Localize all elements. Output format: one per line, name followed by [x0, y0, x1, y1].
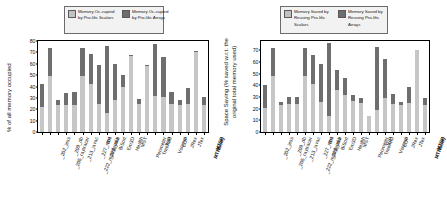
- x-tick-mark-right-18: [409, 132, 410, 135]
- bar-segment-scalars: [64, 105, 68, 132]
- bar-left-12: [137, 41, 141, 132]
- y-tick-mark-right-50: [259, 73, 261, 74]
- bar-left-9: [113, 41, 117, 132]
- x-tick-mark-right-12: [361, 132, 362, 135]
- bar-left-14: [153, 41, 157, 132]
- x-tick-mark-right-11: [353, 132, 354, 135]
- bar-right-12: [359, 41, 363, 132]
- y-minor-tick-right-25: [260, 102, 261, 103]
- y-tick-mark-right-30: [259, 97, 261, 98]
- y-tick-mark-left-10: [36, 120, 38, 121]
- legend-label-saved-scalars: Memory Saved by Reusing Pro-lific Scalar…: [294, 9, 334, 28]
- bar-segment-scalars: [279, 105, 283, 132]
- bar-right-7: [319, 41, 323, 132]
- bar-segment-arrays: [113, 64, 117, 100]
- y-axis-title-right: Space Saving (% saved w.r.t. the origina…: [223, 36, 238, 128]
- bar-segment-arrays: [423, 98, 427, 105]
- bar-segment-arrays: [287, 97, 291, 104]
- x-tick-mark-left-16: [172, 132, 173, 135]
- x-tick-mark-right-14: [377, 132, 378, 135]
- x-tick-mark-left-15: [163, 132, 164, 135]
- bar-left-15: [161, 41, 165, 132]
- y-minor-tick-right-5: [260, 126, 261, 127]
- legend-label-scalars: Memory Oc-cupied by Pro-lific Scalars: [78, 9, 118, 22]
- bar-segment-scalars: [129, 56, 133, 132]
- bar-segment-scalars: [271, 76, 275, 132]
- bar-segment-arrays: [169, 92, 173, 103]
- legend-space-saving: Memory Saved by Reusing Pro-lific Scalar…: [280, 6, 388, 34]
- bar-segment-scalars: [153, 96, 157, 132]
- bar-right-15: [383, 41, 387, 132]
- bar-left-7: [97, 41, 101, 132]
- bar-right-4: [295, 41, 299, 132]
- y-minor-tick-left-65: [37, 58, 38, 59]
- bar-left-19: [194, 41, 198, 132]
- x-axis-label-right-0: _202_jess: [281, 136, 294, 159]
- bar-right-10: [343, 41, 347, 132]
- bar-right-20: [423, 41, 427, 132]
- legend-item-saved-scalars: Memory Saved by Reusing Pro-lific Scalar…: [284, 9, 334, 31]
- bar-right-16: [391, 41, 395, 132]
- y-tick-mark-left-0: [36, 132, 38, 133]
- x-tick-mark-right-5: [305, 132, 306, 135]
- bar-segment-scalars: [56, 105, 60, 132]
- y-minor-tick-right-35: [260, 91, 261, 92]
- x-tick-mark-left-5: [83, 132, 84, 135]
- bar-right-14: [375, 41, 379, 132]
- bar-right-17: [399, 41, 403, 132]
- x-axis-label-left-11: MST: [139, 136, 148, 148]
- x-tick-mark-left-3: [66, 132, 67, 135]
- bar-left-16: [169, 41, 173, 132]
- x-tick-mark-right-19: [417, 132, 418, 135]
- bar-segment-scalars: [391, 104, 395, 132]
- y-minor-tick-right-55: [260, 67, 261, 68]
- bar-segment-scalars: [178, 105, 182, 132]
- x-tick-mark-left-19: [196, 132, 197, 135]
- bar-segment-arrays: [383, 59, 387, 99]
- bar-right-13: [367, 41, 371, 132]
- bar-right-3: [287, 41, 291, 132]
- bar-segment-scalars: [113, 100, 117, 132]
- bar-right-9: [335, 41, 339, 132]
- bar-segment-scalars: [415, 50, 419, 132]
- bar-segment-arrays: [48, 48, 52, 76]
- bar-segment-scalars: [367, 116, 371, 132]
- x-tick-mark-left-10: [123, 132, 124, 135]
- x-tick-mark-right-6: [313, 132, 314, 135]
- bar-segment-arrays: [186, 88, 190, 104]
- bar-segment-arrays: [161, 57, 165, 97]
- bar-segment-arrays: [89, 54, 93, 85]
- legend-item-arrays: Memory Oc-cupied by Pro-lific Arrays: [122, 9, 172, 31]
- y-minor-tick-right-75: [260, 44, 261, 45]
- x-tick-mark-left-4: [74, 132, 75, 135]
- x-tick-mark-left-17: [180, 132, 181, 135]
- bar-segment-scalars: [161, 97, 165, 132]
- bar-segment-scalars: [169, 104, 173, 132]
- y-tick-mark-right-70: [259, 50, 261, 51]
- legend-item-scalars: Memory Oc-cupied by Pro-lific Scalars: [68, 9, 118, 31]
- bar-segment-scalars: [48, 76, 52, 132]
- x-tick-mark-left-8: [107, 132, 108, 135]
- legend-swatch-scalars-icon: [68, 10, 76, 18]
- legend-swatch-saved-scalars-icon: [284, 10, 292, 18]
- bar-segment-arrays: [375, 47, 379, 110]
- x-tick-mark-right-16: [393, 132, 394, 135]
- x-tick-mark-left-9: [115, 132, 116, 135]
- bar-right-0: [263, 41, 267, 132]
- bar-left-4: [72, 41, 76, 132]
- bar-segment-arrays: [105, 46, 109, 113]
- bar-right-1: [271, 41, 275, 132]
- y-tick-mark-left-20: [36, 109, 38, 110]
- bar-segment-scalars: [295, 104, 299, 132]
- bar-segment-scalars: [263, 108, 267, 133]
- bar-left-10: [121, 41, 125, 132]
- legend-swatch-arrays-icon: [122, 10, 130, 18]
- y-tick-mark-left-40: [36, 86, 38, 87]
- bar-right-18: [407, 41, 411, 132]
- bar-segment-scalars: [383, 98, 387, 132]
- chart-panel-space-saving: Memory Saved by Reusing Pro-lific Scalar…: [219, 0, 438, 197]
- bar-segment-arrays: [303, 48, 307, 76]
- bar-segment-arrays: [407, 87, 411, 103]
- bar-right-8: [327, 41, 331, 132]
